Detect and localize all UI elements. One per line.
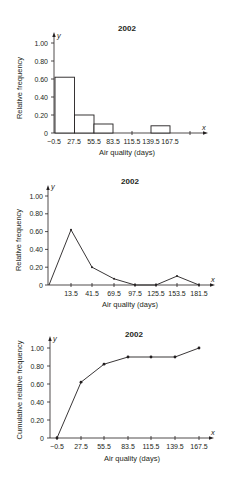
svg-text:27.5: 27.5 bbox=[74, 443, 88, 450]
bar bbox=[151, 126, 170, 133]
svg-text:−0.5: −0.5 bbox=[50, 443, 64, 450]
svg-text:0.40: 0.40 bbox=[29, 246, 43, 253]
svg-text:13.5: 13.5 bbox=[64, 290, 78, 297]
svg-text:0.20: 0.20 bbox=[30, 417, 44, 424]
y-axis-label: Relative frequency bbox=[15, 57, 24, 119]
svg-text:181.5: 181.5 bbox=[190, 290, 208, 297]
svg-text:0.40: 0.40 bbox=[34, 94, 48, 101]
svg-text:139.5: 139.5 bbox=[166, 443, 184, 450]
svg-text:83.5: 83.5 bbox=[106, 138, 120, 145]
x-axis-symbol: x bbox=[201, 123, 206, 132]
svg-text:55.5: 55.5 bbox=[87, 138, 101, 145]
y-axis-label: Relative frequency bbox=[14, 209, 23, 271]
svg-text:0: 0 bbox=[39, 282, 43, 289]
svg-text:0.60: 0.60 bbox=[29, 228, 43, 235]
bar bbox=[75, 115, 95, 133]
svg-text:0.80: 0.80 bbox=[30, 363, 44, 370]
svg-text:1.00: 1.00 bbox=[29, 193, 43, 200]
svg-text:1.00: 1.00 bbox=[34, 40, 48, 47]
y-axis-label: Cumulative relative frequency bbox=[15, 340, 24, 439]
y-ticks: 0 0.20 0.40 0.60 0.80 1.00 bbox=[30, 345, 50, 442]
svg-text:0.80: 0.80 bbox=[34, 58, 48, 65]
svg-text:0: 0 bbox=[40, 435, 44, 442]
svg-text:115.5: 115.5 bbox=[124, 138, 141, 145]
svg-text:0.20: 0.20 bbox=[34, 112, 48, 119]
svg-text:115.5: 115.5 bbox=[143, 443, 160, 450]
svg-text:167.5: 167.5 bbox=[190, 443, 208, 450]
svg-text:97.5: 97.5 bbox=[128, 290, 142, 297]
svg-text:153.5: 153.5 bbox=[168, 290, 186, 297]
x-axis-label: Air quality (days) bbox=[104, 454, 160, 463]
bar bbox=[94, 124, 113, 133]
y-ticks: 0 0.20 0.40 0.60 0.80 1.00 bbox=[34, 40, 54, 137]
svg-text:1.00: 1.00 bbox=[30, 345, 44, 352]
data-points bbox=[56, 347, 201, 440]
svg-text:41.5: 41.5 bbox=[85, 290, 99, 297]
svg-text:83.5: 83.5 bbox=[121, 443, 135, 450]
ogive-line bbox=[57, 348, 199, 438]
y-axis-symbol: y bbox=[50, 182, 56, 191]
y-axis-arrow-icon bbox=[46, 185, 49, 190]
svg-text:0.60: 0.60 bbox=[30, 381, 44, 388]
svg-text:55.5: 55.5 bbox=[97, 443, 111, 450]
x-axis-label: Air quality (days) bbox=[99, 148, 155, 157]
svg-text:139.5: 139.5 bbox=[142, 138, 160, 145]
y-axis-symbol: y bbox=[52, 334, 58, 343]
chart-title: 2002 bbox=[121, 177, 139, 186]
chart-title: 2002 bbox=[125, 330, 143, 339]
svg-text:0.40: 0.40 bbox=[30, 399, 44, 406]
chart-title: 2002 bbox=[118, 24, 136, 33]
svg-text:0.60: 0.60 bbox=[34, 76, 48, 83]
svg-text:69.5: 69.5 bbox=[107, 290, 121, 297]
histogram-chart: 2002 y x 0 0.20 0.40 0.60 0.80 1.00 −0.5… bbox=[0, 0, 237, 160]
svg-text:0.20: 0.20 bbox=[29, 264, 43, 271]
frequency-polygon-chart: 2002 y x 0 0.20 0.40 0.60 0.80 1.00 13.5… bbox=[0, 160, 237, 320]
svg-text:−0.5: −0.5 bbox=[47, 138, 61, 145]
svg-text:0.80: 0.80 bbox=[29, 210, 43, 217]
ogive-chart: 2002 y x 0 0.20 0.40 0.60 0.80 1.00 −0.5… bbox=[0, 320, 237, 488]
y-axis-symbol: y bbox=[56, 31, 62, 40]
svg-text:167.5: 167.5 bbox=[161, 138, 179, 145]
bar bbox=[55, 77, 75, 133]
y-axis-arrow-icon bbox=[48, 336, 51, 341]
svg-text:0: 0 bbox=[44, 130, 48, 137]
svg-text:125.5: 125.5 bbox=[147, 290, 165, 297]
x-axis-symbol: x bbox=[210, 275, 215, 284]
y-ticks: 0 0.20 0.40 0.60 0.80 1.00 bbox=[29, 193, 48, 289]
x-axis-symbol: x bbox=[210, 428, 215, 437]
svg-text:27.5: 27.5 bbox=[67, 138, 81, 145]
histogram-bars bbox=[55, 77, 170, 133]
x-axis-label: Air quality (days) bbox=[102, 300, 158, 309]
y-axis-arrow-icon bbox=[52, 32, 55, 37]
